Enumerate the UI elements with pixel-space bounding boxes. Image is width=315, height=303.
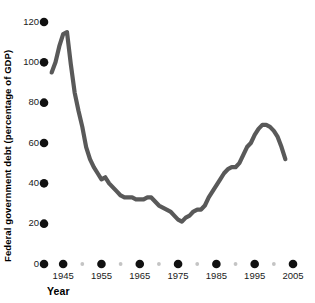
y-axis-tick-label: 120: [13, 16, 39, 27]
debt-trend-line: [52, 32, 286, 222]
x-axis-tick-dot: [250, 260, 259, 269]
x-axis-tick-label: 2005: [276, 270, 310, 281]
chart-container: Federal government debt (percentage of G…: [0, 0, 315, 303]
y-axis-tick-dot: [40, 98, 49, 107]
y-axis-tick-label: 40: [13, 177, 39, 188]
x-axis-ticks: [59, 260, 297, 269]
x-axis-minor-tick-dot: [119, 262, 123, 266]
y-axis-tick-dot: [40, 18, 49, 27]
x-axis-minor-tick-dot: [80, 262, 84, 266]
x-axis-tick-dot: [212, 260, 221, 269]
x-axis-tick-dot: [59, 260, 68, 269]
x-axis-tick-label: 1975: [161, 270, 195, 281]
x-axis-tick-dot: [97, 260, 106, 269]
x-axis-tick-dot: [174, 260, 183, 269]
y-axis-tick-dot: [40, 139, 49, 148]
y-axis-ticks: [40, 18, 49, 269]
x-axis-tick-dot: [135, 260, 144, 269]
x-axis-tick-label: 1945: [46, 270, 80, 281]
x-axis-tick-label: 1965: [123, 270, 157, 281]
x-axis-tick-label: 1955: [85, 270, 119, 281]
x-axis-minor-tick-dot: [234, 262, 238, 266]
y-axis-tick-dot: [40, 260, 49, 269]
y-axis-tick-label: 20: [13, 217, 39, 228]
x-axis-minor-ticks: [42, 262, 276, 266]
y-axis-tick-dot: [40, 58, 49, 67]
y-axis-tick-dot: [40, 179, 49, 188]
y-axis-tick-label: 80: [13, 96, 39, 107]
x-axis-minor-tick-dot: [195, 262, 199, 266]
x-axis-tick-label: 1995: [238, 270, 272, 281]
y-axis-tick-label: 0: [13, 258, 39, 269]
y-axis-tick-label: 100: [13, 56, 39, 67]
y-axis-tick-label: 60: [13, 137, 39, 148]
line-plot: [0, 0, 315, 303]
x-axis-tick-label: 1985: [199, 270, 233, 281]
x-axis-tick-dot: [289, 260, 298, 269]
y-axis-tick-dot: [40, 219, 49, 228]
x-axis-minor-tick-dot: [157, 262, 161, 266]
x-axis-minor-tick-dot: [272, 262, 276, 266]
